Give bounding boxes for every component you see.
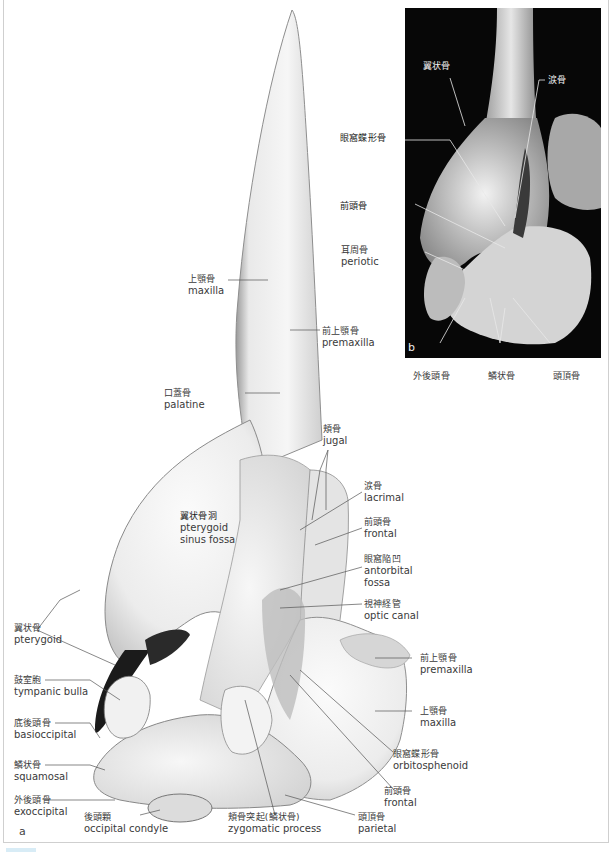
label-palatine: 口蓋骨palatine xyxy=(164,387,205,411)
label-basioccipital: 底後頭骨basioccipital xyxy=(14,717,76,741)
label-lacrimal: 涙骨lacrimal xyxy=(364,480,404,504)
label-b-squamosal: 鱗状骨 xyxy=(488,370,516,382)
label-b-periotic: 耳周骨periotic xyxy=(341,244,379,268)
label-b-frontal: 前頭骨 xyxy=(340,200,368,212)
label-occipital-condyle: 後頭顆occipital condyle xyxy=(84,811,168,835)
label-maxilla-lower: 上顎骨maxilla xyxy=(420,705,456,729)
label-antorbital-fossa: 眼窩陥凹antorbitalfossa xyxy=(364,553,413,589)
label-frontal-lower: 前頭骨frontal xyxy=(384,785,417,809)
label-parietal: 頭頂骨parietal xyxy=(358,811,396,835)
label-optic-canal: 視神経管optic canal xyxy=(364,598,419,622)
label-b-lacrimal: 涙骨 xyxy=(548,74,566,86)
label-pterygoid: 翼状骨pterygoid xyxy=(14,622,62,646)
label-b-orbitosphenoid: 眼窩蝶形骨 xyxy=(340,132,386,144)
label-jugal: 頬骨jugal xyxy=(323,423,347,447)
label-premaxilla-lower: 前上顎骨premaxilla xyxy=(420,652,473,676)
label-frontal-upper: 前頭骨frontal xyxy=(364,516,397,540)
label-pterygoid-sinus-fossa: 翼状骨洞pterygoidsinus fossa xyxy=(180,510,235,546)
label-zygomatic-process: 頬骨突起(鱗状骨)zygomatic process xyxy=(228,811,321,835)
label-tympanic-bulla: 鼓室胞tympanic bulla xyxy=(14,674,88,698)
label-b-parietal: 頭頂骨 xyxy=(553,370,581,382)
label-orbitosphenoid: 眼窩蝶形骨orbitosphenoid xyxy=(393,748,468,772)
label-squamosal: 鱗状骨squamosal xyxy=(14,759,68,783)
label-maxilla-upper: 上顎骨maxilla xyxy=(188,273,224,297)
label-b-pterygoid: 翼状骨 xyxy=(423,60,451,72)
photo-panel-b: b 翼状骨 涙骨 xyxy=(405,8,601,358)
panel-b-letter: b xyxy=(408,341,415,354)
decorative-mark xyxy=(6,848,36,852)
panel-a-letter: a xyxy=(19,825,26,838)
label-b-exoccipital: 外後頭骨 xyxy=(413,370,450,382)
label-exoccipital: 外後頭骨exoccipital xyxy=(14,794,67,818)
label-premaxilla-upper: 前上顎骨premaxilla xyxy=(322,325,375,349)
